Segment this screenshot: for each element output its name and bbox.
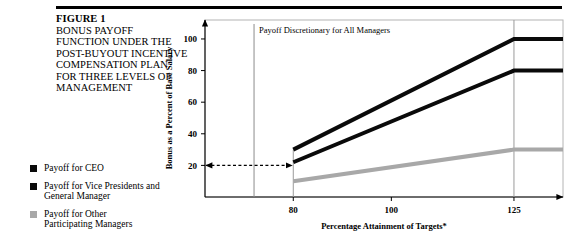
- header-rule: [56, 6, 562, 9]
- y-axis-title: Bonus as a Percent of Base Salary: [164, 46, 174, 169]
- y-tick-label: 20: [188, 161, 198, 171]
- figure-root: FIGURE 1 BONUS PAYOFF FUNCTION UNDER THE…: [0, 0, 572, 250]
- y-tick-label: 80: [188, 66, 198, 76]
- legend-label-other-line-1: Payoff for Other: [44, 209, 107, 219]
- y-tick-label: 60: [188, 97, 198, 107]
- legend-swatch-icon-vp: [30, 183, 37, 190]
- y-tick-label: 40: [188, 129, 198, 139]
- x-axis-title: Percentage Attainment of Targets*: [321, 221, 447, 231]
- chart-series-line: [293, 150, 563, 182]
- y-axis-ticks: 20406080100: [184, 34, 206, 170]
- legend-label-vp-line-1: Payoff for Vice Presidents and: [44, 181, 160, 191]
- x-tick-label: 125: [507, 205, 521, 215]
- legend-label-ceo: Payoff for CEO: [44, 163, 104, 173]
- legend-label-vp-line-2: General Manager: [44, 191, 110, 201]
- chart-plot-area: 20406080100 80100125 Payoff Discretionar…: [160, 12, 572, 237]
- bonus-payoff-line-chart: 20406080100 80100125 Payoff Discretionar…: [160, 12, 572, 237]
- x-tick-label: 80: [289, 205, 299, 215]
- x-tick-label: 100: [385, 205, 399, 215]
- legend-swatch-icon-other: [30, 211, 37, 218]
- legend-item-other: Payoff for Other Participating Managers: [30, 209, 180, 230]
- chart-legend: Payoff for CEO Payoff for Vice President…: [30, 163, 180, 237]
- legend-item-ceo: Payoff for CEO: [30, 163, 180, 174]
- discretionary-annotation-label: Payoff Discretionary for All Managers: [259, 25, 390, 35]
- legend-item-vp: Payoff for Vice Presidents and General M…: [30, 181, 180, 202]
- y-tick-label: 100: [184, 34, 198, 44]
- chart-series-line: [293, 39, 563, 150]
- legend-swatch-icon-ceo: [30, 165, 37, 172]
- plot-frame: [205, 20, 563, 197]
- x-axis-ticks: 80100125: [289, 197, 521, 215]
- legend-label-other-line-2: Participating Managers: [44, 219, 132, 229]
- chart-series-group: [293, 39, 563, 181]
